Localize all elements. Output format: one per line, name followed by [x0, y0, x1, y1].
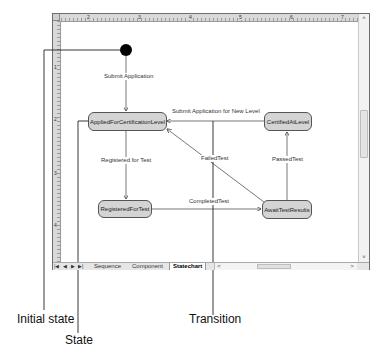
callout-state: State — [65, 335, 93, 345]
state-await-test-results[interactable]: AwaitTestResults — [262, 200, 312, 219]
tab-sequence[interactable]: Sequence — [91, 263, 124, 270]
next-tab-button[interactable]: ▶ — [71, 263, 75, 270]
transition-label-registered-for-test[interactable]: Registered for Test — [100, 157, 152, 164]
diagram-connectors — [0, 0, 383, 345]
transition-label-submit-application[interactable]: Submit Application — [103, 73, 154, 80]
tab-component[interactable]: Component — [129, 263, 166, 270]
scroll-right-button[interactable]: > — [348, 262, 356, 270]
last-tab-button[interactable]: ▶| — [78, 263, 83, 270]
transition-label-submit-application-new-level[interactable]: Submit Application for New Level — [171, 108, 261, 115]
state-registered-for-test[interactable]: RegisteredForTest — [98, 200, 152, 218]
state-applied-for-certification-level[interactable]: AppliedForCertificationLevel — [88, 112, 167, 131]
callout-transition: Transition — [189, 312, 241, 326]
transition-label-completed-test[interactable]: CompletedTest — [188, 198, 230, 205]
prev-tab-button[interactable]: ◀ — [63, 263, 67, 270]
initial-state-node[interactable] — [120, 44, 132, 56]
callout-initial-state: Initial state — [17, 312, 74, 326]
horizontal-scroll-thumb[interactable] — [257, 264, 291, 269]
transition-label-passed-test[interactable]: PassedTest — [271, 156, 304, 163]
scroll-left-button[interactable]: < — [215, 262, 223, 270]
tab-statechart[interactable]: Statechart — [169, 263, 206, 270]
state-certified-at-level[interactable]: CertifiedAtLevel — [264, 112, 312, 131]
first-tab-button[interactable]: |◀ — [54, 263, 59, 270]
transition-label-failed-test[interactable]: FailedTest — [200, 155, 229, 162]
